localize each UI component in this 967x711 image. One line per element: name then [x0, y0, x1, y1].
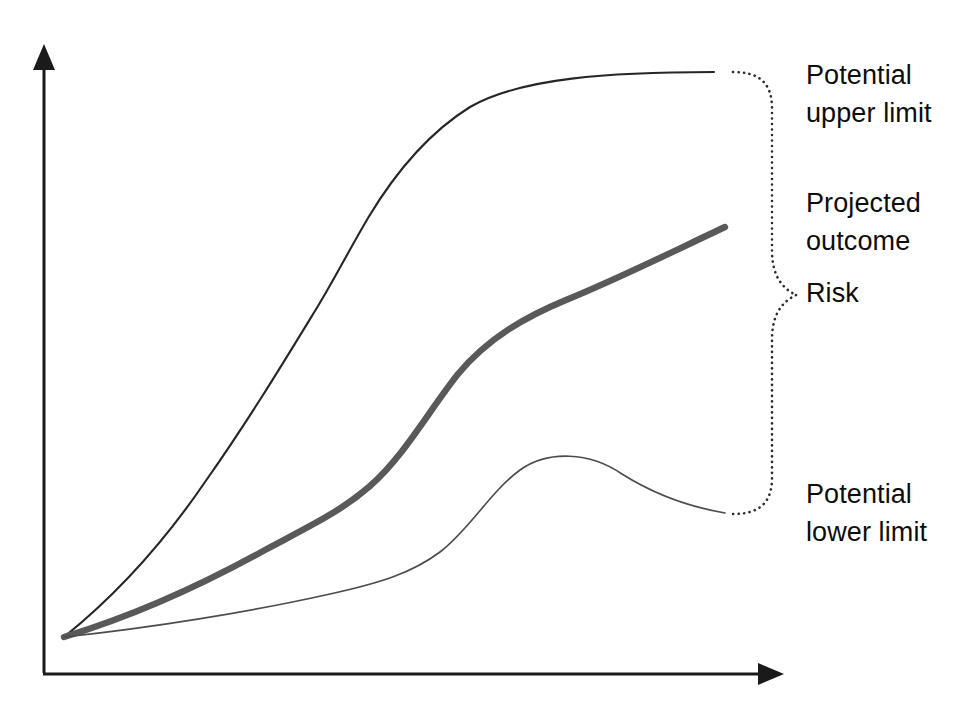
- y-axis-arrow: [33, 44, 55, 673]
- x-axis-arrow: [43, 663, 784, 685]
- label-potential-upper-limit: Potential upper limit: [806, 56, 932, 132]
- dotted-curly-brace: [733, 72, 796, 514]
- chart-figure: Potential upper limit Projected outcome …: [0, 0, 967, 711]
- series-potential-upper-limit: [64, 72, 714, 637]
- label-risk: Risk: [806, 274, 859, 312]
- series-potential-lower-limit: [64, 456, 725, 637]
- label-potential-lower-limit: Potential lower limit: [806, 475, 927, 551]
- label-projected-outcome: Projected outcome: [806, 184, 921, 260]
